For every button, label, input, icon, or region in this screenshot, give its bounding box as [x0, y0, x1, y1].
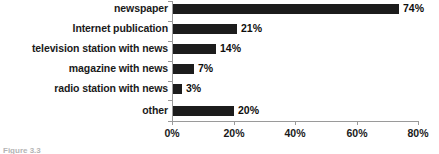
bar-chart-plot-area: newspaper 74% Internet publication 21% t…	[0, 0, 439, 154]
bar-row: newspaper 74%	[0, 3, 439, 15]
x-axis-tick-label: 20%	[204, 127, 264, 139]
y-axis-tick	[168, 81, 172, 82]
x-axis-tick	[234, 121, 235, 125]
bar-row: radio station with news 3%	[0, 83, 439, 95]
bar-row: magazine with news 7%	[0, 63, 439, 75]
x-axis-tick-label: 80%	[388, 127, 439, 139]
bar-value-label: 14%	[220, 42, 241, 54]
category-label: television station with news	[32, 42, 168, 54]
x-axis-tick	[295, 121, 296, 125]
figure-caption: Figure 3.3	[3, 146, 41, 154]
bar-value-label: 20%	[238, 104, 259, 116]
x-axis-tick	[172, 121, 173, 125]
bar-value-label: 3%	[186, 82, 201, 94]
bar-value-label: 21%	[241, 22, 262, 34]
x-axis-tick	[357, 121, 358, 125]
bar-magazine-with-news	[173, 64, 194, 74]
category-label: magazine with news	[69, 62, 168, 74]
figure-container: newspaper 74% Internet publication 21% t…	[0, 0, 439, 154]
bar-row: television station with news 14%	[0, 43, 439, 55]
x-axis-tick-label: 0%	[142, 127, 202, 139]
bar-value-label: 7%	[198, 62, 213, 74]
bar-radio-station-with-news	[173, 84, 182, 94]
bar-television-station-with-news	[173, 44, 216, 54]
x-axis-tick	[418, 121, 419, 125]
y-axis-line	[172, 1, 173, 121]
y-axis-tick	[168, 100, 172, 101]
category-label: radio station with news	[54, 82, 168, 94]
category-label: other	[142, 104, 168, 116]
bar-internet-publication	[173, 24, 237, 34]
y-axis-tick	[168, 41, 172, 42]
x-axis-tick-label: 40%	[265, 127, 325, 139]
bar-value-label: 74%	[403, 2, 424, 14]
y-axis-tick	[168, 1, 172, 2]
y-axis-tick	[168, 61, 172, 62]
bar-row: Internet publication 21%	[0, 23, 439, 35]
bar-other	[173, 106, 234, 116]
category-label: Internet publication	[73, 22, 168, 34]
bar-row: other 20%	[0, 105, 439, 117]
x-axis-tick-label: 60%	[327, 127, 387, 139]
bar-newspaper	[173, 4, 399, 14]
category-label: newspaper	[114, 2, 168, 14]
y-axis-tick	[168, 21, 172, 22]
